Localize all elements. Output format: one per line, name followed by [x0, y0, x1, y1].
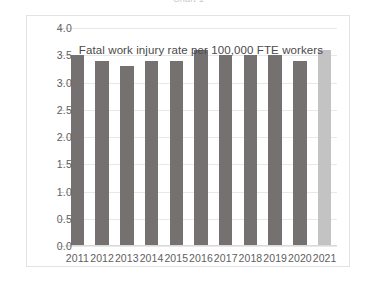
bar-2017[interactable] — [219, 55, 232, 246]
bar-2011[interactable] — [71, 55, 84, 246]
y-axis-tick-label: 1.5 — [57, 158, 72, 170]
x-axis-tick-label-2018: 2018 — [238, 252, 263, 264]
y-axis-tick-label: 0.5 — [57, 213, 72, 225]
x-axis-tick-label-2012: 2012 — [90, 252, 115, 264]
x-axis-tick-label-2011: 2011 — [65, 252, 90, 264]
y-axis-tick-label: 2.5 — [57, 104, 72, 116]
bar-2019[interactable] — [268, 55, 281, 246]
bar-2014[interactable] — [145, 61, 158, 246]
y-axis-tick-label: 4.0 — [57, 22, 72, 34]
bar-slot — [164, 28, 189, 246]
x-axis-tick-label-2017: 2017 — [213, 252, 238, 264]
x-axis-tick-label-2015: 2015 — [164, 252, 189, 264]
x-axis-tick-label-2019: 2019 — [263, 252, 288, 264]
clipped-header-text: Chart 1 — [0, 0, 377, 14]
y-axis-tick-label: 1.0 — [57, 186, 72, 198]
x-axis-tick-label-2016: 2016 — [189, 252, 214, 264]
bar-slot — [90, 28, 115, 246]
bar-2013[interactable] — [120, 66, 133, 246]
x-axis-labels: 2011201220132014201520162017201820192020… — [65, 252, 337, 268]
bar-slot — [312, 28, 337, 246]
bar-2016[interactable] — [194, 50, 207, 246]
plot-area: Fatal work injury rate per 100,000 FTE w… — [65, 28, 337, 246]
bar-slot — [288, 28, 313, 246]
x-axis-tick-label-2021: 2021 — [312, 252, 337, 264]
x-axis-tick-label-2020: 2020 — [288, 252, 313, 264]
bar-slot — [189, 28, 214, 246]
bar-2015[interactable] — [170, 61, 183, 246]
bar-slot — [263, 28, 288, 246]
y-axis-tick-label: 2.0 — [57, 131, 72, 143]
x-axis-tick-label-2013: 2013 — [114, 252, 139, 264]
y-axis-tick-label: 3.0 — [57, 77, 72, 89]
gridline — [65, 246, 337, 247]
bar-slot — [213, 28, 238, 246]
chart-title: Fatal work injury rate per 100,000 FTE w… — [65, 44, 337, 56]
bar-slot — [139, 28, 164, 246]
chart-frame: Fatal work injury rate per 100,000 FTE w… — [26, 15, 350, 267]
bar-2020[interactable] — [293, 61, 306, 246]
y-axis-tick-label: 3.5 — [57, 49, 72, 61]
bar-2018[interactable] — [244, 55, 257, 246]
x-axis-tick-label-2014: 2014 — [139, 252, 164, 264]
bar-slot — [238, 28, 263, 246]
bar-series — [65, 28, 337, 246]
bar-slot — [114, 28, 139, 246]
bar-2021[interactable] — [318, 50, 331, 246]
y-axis-tick-label: 0.0 — [57, 240, 72, 252]
x-axis-line — [65, 245, 337, 246]
bar-2012[interactable] — [95, 61, 108, 246]
